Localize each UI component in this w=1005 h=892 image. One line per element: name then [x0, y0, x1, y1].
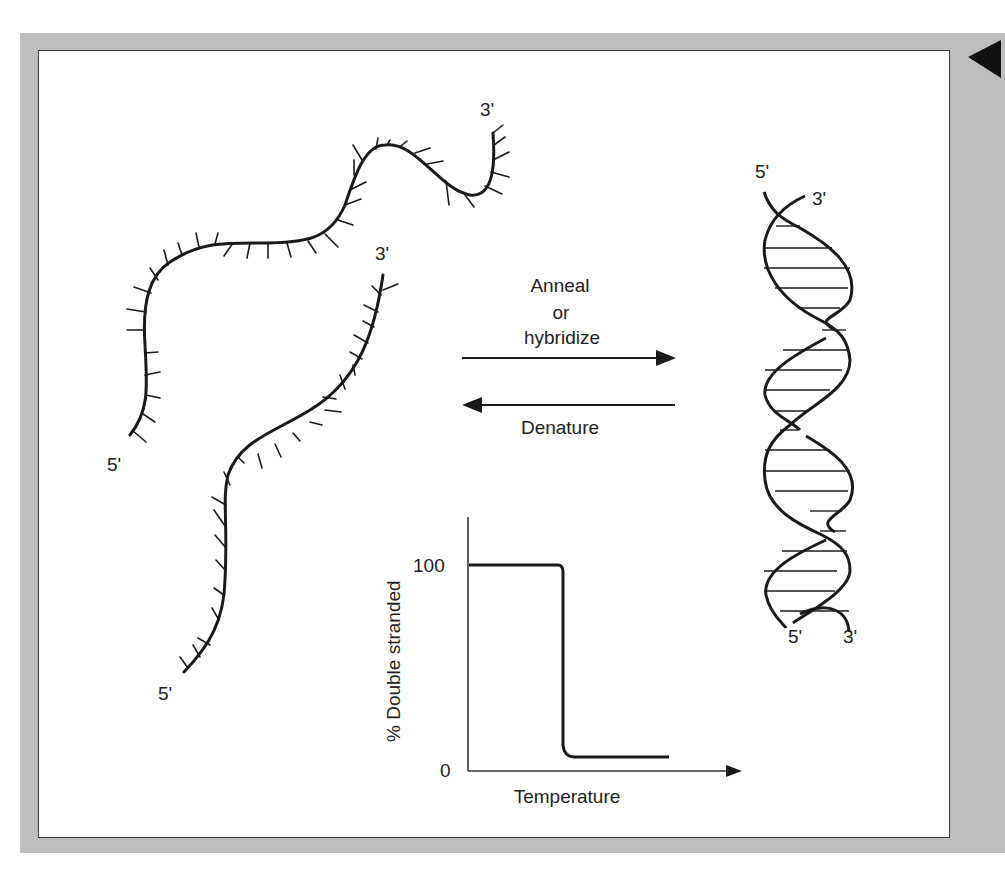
helix-bottom-3prime-label: 3' — [843, 627, 857, 646]
double-helix — [764, 192, 853, 632]
anneal-label: Anneal — [530, 276, 589, 295]
denature-label: Denature — [521, 418, 599, 437]
anneal-arrow — [462, 350, 676, 366]
single-strand-a — [127, 125, 509, 442]
dna-hybridization-diagram — [0, 0, 1005, 892]
x-axis-label: Temperature — [514, 787, 621, 806]
helix-top-5prime-label: 5' — [755, 162, 769, 181]
hybridize-label: hybridize — [524, 328, 600, 347]
strand-a-5prime-label: 5' — [107, 455, 121, 474]
strand-b-5prime-label: 5' — [158, 684, 172, 703]
melting-curve-chart — [468, 517, 742, 777]
or-label: or — [553, 303, 570, 322]
triangle-left-icon — [968, 40, 1001, 78]
single-strand-b — [180, 275, 398, 672]
helix-top-3prime-label: 3' — [812, 189, 826, 208]
ytick-100: 100 — [413, 556, 445, 575]
strand-a-3prime-label: 3' — [480, 100, 494, 119]
ytick-0: 0 — [440, 761, 451, 780]
y-axis-label: % Double stranded — [383, 580, 405, 742]
strand-b-3prime-label: 3' — [375, 244, 389, 263]
denature-arrow — [462, 397, 675, 413]
helix-bottom-5prime-label: 5' — [788, 627, 802, 646]
